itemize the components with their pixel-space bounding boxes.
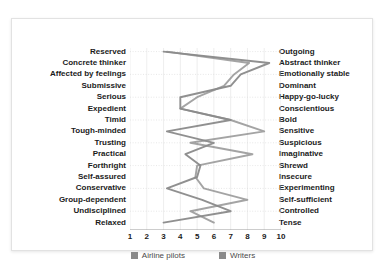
left-trait-label: Practical [16, 150, 126, 158]
personality-profile-chart: ReservedConcrete thinkerAffected by feel… [12, 19, 374, 252]
left-trait-label: Forthright [16, 162, 126, 170]
legend-item[interactable]: Writers [219, 251, 255, 260]
legend-label: Writers [230, 251, 255, 260]
right-trait-label: Abstract thinker [279, 59, 383, 67]
left-trait-label: Self-assured [16, 173, 126, 181]
x-tick-label: 1 [123, 232, 137, 242]
right-trait-label: Happy-go-lucky [279, 93, 383, 101]
right-trait-label: Outgoing [279, 48, 383, 56]
series-line [167, 52, 264, 223]
left-trait-label: Reserved [16, 48, 126, 56]
chart-legend: Airline pilotsWriters [12, 251, 374, 260]
left-trait-label: Undisciplined [16, 207, 126, 215]
page-root: ReservedConcrete thinkerAffected by feel… [0, 0, 383, 276]
gridlines [130, 48, 281, 230]
right-trait-label: Insecure [279, 173, 383, 181]
left-trait-label: Tough-minded [16, 127, 126, 135]
left-trait-label: Relaxed [16, 219, 126, 227]
right-trait-label: Experimenting [279, 184, 383, 192]
legend-item[interactable]: Airline pilots [131, 251, 185, 260]
left-trait-label: Concrete thinker [16, 59, 126, 67]
left-trait-label: Group-dependent [16, 196, 126, 204]
x-axis-tick-labels: 12345678910 [122, 232, 292, 244]
left-trait-label: Serious [16, 93, 126, 101]
legend-label: Airline pilots [142, 251, 185, 260]
series-line [164, 52, 270, 223]
series-lines [164, 52, 270, 223]
legend-swatch-icon [131, 252, 138, 259]
right-trait-label: Self-sufficient [279, 196, 383, 204]
right-trait-label: Conscientious [279, 105, 383, 113]
chart-card: ReservedConcrete thinkerAffected by feel… [11, 18, 373, 251]
left-trait-label: Timid [16, 116, 126, 124]
right-trait-label: Dominant [279, 82, 383, 90]
x-tick-label: 9 [257, 232, 271, 242]
legend-swatch-icon [219, 252, 226, 259]
left-trait-label: Submissive [16, 82, 126, 90]
plot-svg [130, 48, 281, 230]
right-trait-labels: OutgoingAbstract thinkerEmotionally stab… [279, 48, 383, 228]
x-tick-label: 8 [240, 232, 254, 242]
x-tick-label: 3 [157, 232, 171, 242]
x-tick-label: 7 [224, 232, 238, 242]
right-trait-label: Suspicious [279, 139, 383, 147]
left-trait-label: Affected by feelings [16, 70, 126, 78]
left-trait-label: Conservative [16, 184, 126, 192]
left-trait-label: Trusting [16, 139, 126, 147]
x-tick-label: 5 [190, 232, 204, 242]
left-trait-labels: ReservedConcrete thinkerAffected by feel… [16, 48, 126, 228]
right-trait-label: Sensitive [279, 127, 383, 135]
x-tick-label: 4 [173, 232, 187, 242]
plot-area [130, 48, 281, 230]
right-trait-label: Tense [279, 219, 383, 227]
right-trait-label: Bold [279, 116, 383, 124]
x-tick-label: 6 [207, 232, 221, 242]
left-trait-label: Expedient [16, 105, 126, 113]
right-trait-label: Controlled [279, 207, 383, 215]
x-tick-label: 2 [140, 232, 154, 242]
x-tick-label: 10 [274, 232, 288, 242]
right-trait-label: Emotionally stable [279, 70, 383, 78]
right-trait-label: Imaginative [279, 150, 383, 158]
right-trait-label: Shrewd [279, 162, 383, 170]
